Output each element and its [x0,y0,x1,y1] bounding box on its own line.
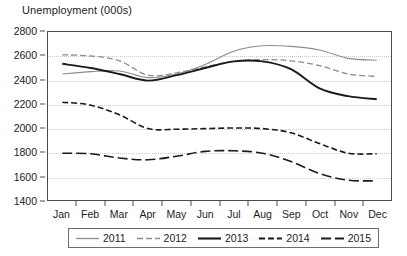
series-line-2014 [62,102,376,154]
legend-item-2012[interactable]: 2012 [137,233,187,244]
y-tick-label: 1800 [14,147,37,158]
y-tick-mark [40,176,45,177]
y-tick-label: 2800 [14,26,37,37]
x-tick-mark [104,201,105,206]
x-tick-label: Jan [53,209,70,220]
y-tick-mark [40,152,45,153]
x-tick-label: Aug [253,209,272,220]
series-line-2013 [62,60,376,99]
y-tick-mark [40,201,45,202]
legend-label: 2015 [348,233,371,244]
x-tick-label: Sep [282,209,301,220]
x-tick-label: Mar [110,209,128,220]
x-tick-mark [363,201,364,206]
x-tick-mark [248,201,249,206]
x-tick-label: May [166,209,186,220]
series-line-2015 [62,151,376,181]
legend-label: 2011 [103,233,126,244]
x-tick-label: Jul [227,209,240,220]
y-axis: 28002600240022002000180016001400 [0,31,45,201]
y-tick-label: 2600 [14,50,37,61]
x-axis: JanFebMarAprMayJunJulAugSepOctNovDec [47,201,392,223]
y-tick-label: 2200 [14,98,37,109]
legend-swatch-icon [137,234,160,243]
y-tick-mark [40,79,45,80]
plot-area [47,31,392,201]
y-tick-mark [40,55,45,56]
y-tick-mark [40,103,45,104]
series-line-2011 [62,45,376,77]
y-tick-label: 2000 [14,123,37,134]
legend-label: 2013 [225,233,248,244]
y-tick-label: 2400 [14,74,37,85]
x-tick-mark [133,201,134,206]
legend-swatch-icon [198,234,221,243]
x-tick-label: Feb [81,209,99,220]
x-tick-mark [334,201,335,206]
legend-label: 2014 [286,233,309,244]
x-tick-mark [190,201,191,206]
legend-swatch-icon [259,234,282,243]
chart-title: Unemployment (000s) [22,4,132,17]
chart-legend: 20112012201320142015 [68,228,379,248]
x-tick-mark [277,201,278,206]
legend-item-2013[interactable]: 2013 [198,233,248,244]
x-tick-label: Oct [312,209,328,220]
legend-swatch-icon [321,234,344,243]
legend-item-2014[interactable]: 2014 [259,233,309,244]
y-tick-label: 1600 [14,171,37,182]
series-lines [48,32,391,200]
y-tick-mark [40,31,45,32]
legend-item-2011[interactable]: 2011 [76,233,126,244]
legend-item-2015[interactable]: 2015 [321,233,371,244]
x-tick-label: Dec [368,209,387,220]
x-tick-mark [305,201,306,206]
unemployment-line-chart: Unemployment (000s) 28002600240022002000… [0,0,407,256]
legend-label: 2012 [164,233,187,244]
x-tick-label: Apr [139,209,155,220]
x-tick-mark [162,201,163,206]
legend-swatch-icon [76,234,99,243]
y-tick-label: 1400 [14,196,37,207]
x-tick-label: Jun [197,209,214,220]
x-tick-mark [219,201,220,206]
x-tick-label: Nov [340,209,359,220]
y-tick-mark [40,128,45,129]
x-tick-mark [75,201,76,206]
